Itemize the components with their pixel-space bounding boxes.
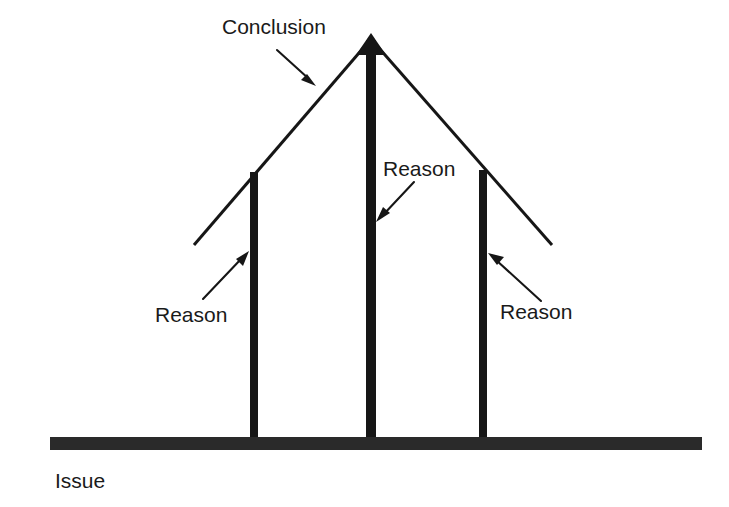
reason-pillars-group xyxy=(250,40,487,441)
reason-middle-label: Reason xyxy=(383,157,455,180)
reason-left-label: Reason xyxy=(155,303,227,326)
reason-left-pointer xyxy=(203,251,249,299)
issue-base-bar xyxy=(50,437,702,450)
pillar-left xyxy=(250,172,258,441)
issue-label: Issue xyxy=(55,469,105,492)
diagram-canvas: Conclusion Reason Reason Reason Issue xyxy=(0,0,729,507)
reason-right-pointer-arrowhead-icon xyxy=(488,253,504,265)
conclusion-pointer-arrowhead-icon xyxy=(301,74,316,86)
conclusion-pointer-line xyxy=(277,50,309,79)
conclusion-label: Conclusion xyxy=(222,15,326,38)
roof-right-slope-line xyxy=(371,39,552,245)
pillar-right xyxy=(479,170,487,441)
argument-structure-figure: Conclusion Reason Reason Reason Issue xyxy=(0,0,729,507)
reason-right-pointer-line xyxy=(496,260,541,301)
reason-right-label: Reason xyxy=(500,300,572,323)
reason-left-pointer-line xyxy=(203,258,242,299)
roof-left-slope-line xyxy=(194,39,371,245)
reason-right-pointer xyxy=(488,253,541,301)
issue-base-group xyxy=(50,437,702,450)
reason-middle-pointer-line xyxy=(383,182,414,215)
reason-middle-pointer xyxy=(376,182,414,222)
conclusion-pointer xyxy=(277,50,316,86)
pillar-middle xyxy=(366,40,376,441)
